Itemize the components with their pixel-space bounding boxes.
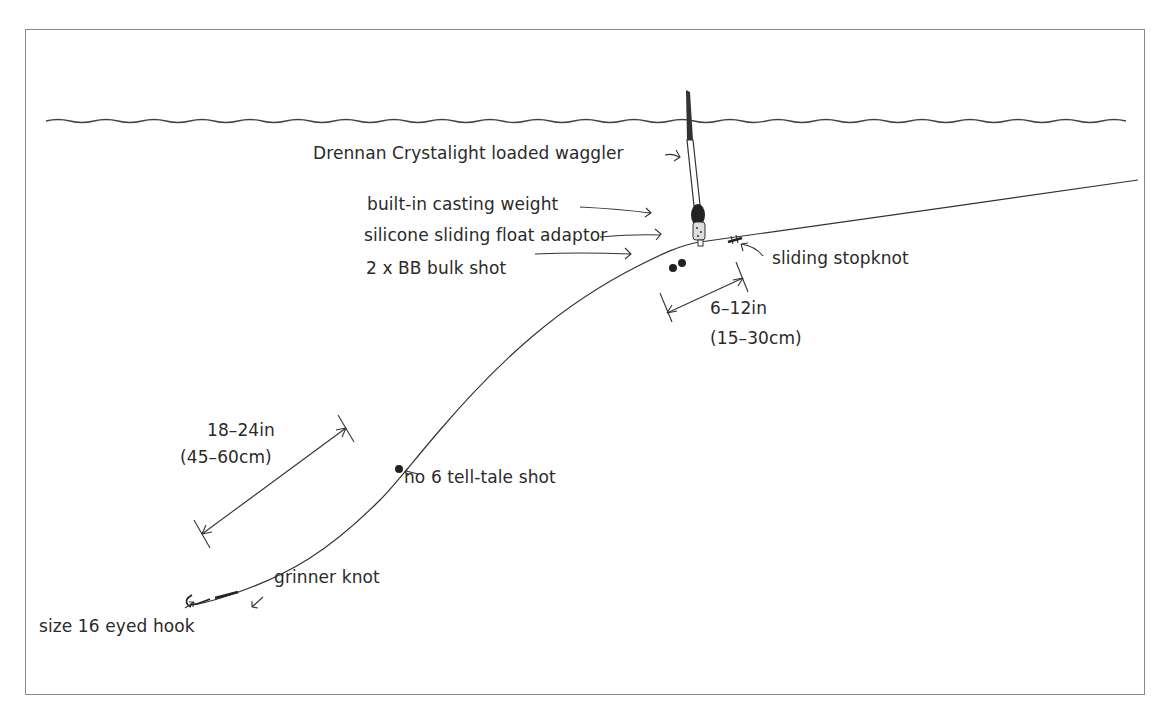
label-casting-weight: built-in casting weight [367, 194, 558, 214]
bulk-shot-1 [669, 264, 677, 272]
label-tell-tale-distance-cm: (45–60cm) [180, 447, 272, 467]
label-stopknot-distance-in: 6–12in [710, 298, 767, 318]
label-float: Drennan Crystalight loaded waggler [313, 143, 624, 163]
tell-tale-shot [395, 465, 403, 473]
rig-illustration [0, 0, 1172, 720]
grinner-knot [215, 592, 238, 598]
label-tell-tale-distance-in: 18–24in [207, 420, 275, 440]
water-surface-line [46, 120, 1126, 123]
bulk-shot-2 [678, 259, 686, 267]
label-stopknot: sliding stopknot [772, 248, 909, 268]
label-tell-tale-shot: no 6 tell-tale shot [404, 467, 556, 487]
waggler-float [686, 90, 705, 246]
label-bulk-shot: 2 x BB bulk shot [366, 258, 506, 278]
fishing-line [190, 180, 1138, 605]
annotation-arrows [185, 150, 763, 608]
label-grinner-knot: grinner knot [274, 567, 380, 587]
label-float-adaptor: silicone sliding float adaptor [364, 225, 607, 245]
label-hook: size 16 eyed hook [39, 616, 195, 636]
label-stopknot-distance-cm: (15–30cm) [710, 328, 802, 348]
